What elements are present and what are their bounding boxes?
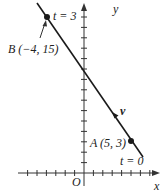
parametric-line xyxy=(37,3,143,157)
origin-label: O xyxy=(72,176,81,188)
parametric-line-diagram: y x O t = 3 B (−4, 15) v A (5, 3) t = 0 xyxy=(0,0,164,194)
point-B-dot xyxy=(44,14,50,20)
vector-label: v xyxy=(120,105,125,117)
point-B-leader-arrow-icon xyxy=(43,20,48,27)
point-A-label: A (5, 3) xyxy=(90,137,126,149)
t3-label: t = 3 xyxy=(53,10,76,22)
x-axis-label: x xyxy=(154,180,159,192)
y-axis-arrow-icon xyxy=(81,3,87,11)
x-axis xyxy=(18,170,160,176)
direction-arrow-icon xyxy=(112,112,119,119)
t0-label: t = 0 xyxy=(120,155,143,167)
x-axis-arrow-icon xyxy=(152,170,160,176)
point-B-label: B (−4, 15) xyxy=(8,43,58,55)
y-axis xyxy=(81,3,87,186)
point-A-dot xyxy=(128,138,134,144)
y-axis-label: y xyxy=(113,3,118,15)
